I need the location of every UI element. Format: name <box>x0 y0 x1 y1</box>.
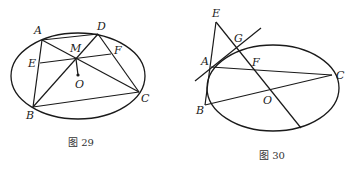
caption-30: 图 30 <box>259 150 285 161</box>
label-M: M <box>69 42 82 55</box>
line-EO <box>216 22 301 128</box>
label-E: E <box>211 7 220 20</box>
label-E: E <box>27 57 36 70</box>
point-O <box>76 73 79 76</box>
diagonal-AC <box>42 40 139 92</box>
label-C: C <box>336 69 345 82</box>
figure-29: A D M E F O C B 图 29 <box>11 20 150 148</box>
segment-BC <box>33 92 139 107</box>
label-A: A <box>200 55 209 68</box>
ellipse-30 <box>207 45 339 131</box>
segment-DC <box>98 34 139 92</box>
label-F: F <box>113 44 122 57</box>
label-D: D <box>96 20 106 33</box>
label-F: F <box>251 56 260 69</box>
label-A: A <box>33 24 42 37</box>
label-B: B <box>25 109 34 122</box>
segment-MO <box>76 59 78 75</box>
label-O: O <box>263 94 272 107</box>
caption-29: 图 29 <box>68 137 94 148</box>
segment-EF <box>40 54 111 63</box>
segment-AB <box>33 40 42 107</box>
figure-30: E G A F C O B 图 30 <box>195 7 345 161</box>
label-G: G <box>234 32 243 45</box>
diagonal-BD <box>33 34 98 107</box>
label-B: B <box>195 104 204 117</box>
segment-AC <box>211 67 332 75</box>
label-O: O <box>75 78 84 91</box>
diagram-canvas: A D M E F O C B 图 29 E G A F C O B 图 30 <box>0 0 351 169</box>
label-C: C <box>141 92 150 105</box>
